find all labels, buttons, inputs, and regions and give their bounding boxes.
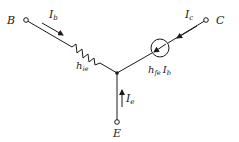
emitter-current-label: Ie <box>125 92 135 106</box>
base-terminal-node <box>24 18 29 23</box>
base-current-arrow-icon <box>42 23 63 35</box>
current-source-hfe-ib: hfeIb <box>148 39 171 77</box>
resistor-label: hie <box>76 60 89 73</box>
collector-current-indicator: Ic <box>177 8 197 38</box>
current-source-label: hfeIb <box>148 64 171 77</box>
base-current-label: Ib <box>48 8 58 22</box>
emitter-terminal: E <box>112 120 121 140</box>
emitter-terminal-node <box>115 120 120 125</box>
collector-terminal-node <box>204 18 209 23</box>
resistor-hie: hie <box>72 44 117 73</box>
base-terminal: B <box>6 14 28 27</box>
hybrid-pi-equivalent-circuit: B Ib hie hfeIb C Ic Ie <box>0 0 239 142</box>
collector-current-arrow-icon <box>177 26 197 38</box>
resistor-to-junction-wire <box>100 63 117 73</box>
collector-label: C <box>216 14 225 27</box>
collector-current-label: Ic <box>184 8 193 22</box>
base-label: B <box>6 14 15 27</box>
collector-terminal: C <box>204 14 225 27</box>
base-wire <box>28 21 72 47</box>
junction-to-source-wire <box>117 53 152 73</box>
emitter-current-indicator: Ie <box>122 90 135 107</box>
emitter-label: E <box>112 127 121 140</box>
